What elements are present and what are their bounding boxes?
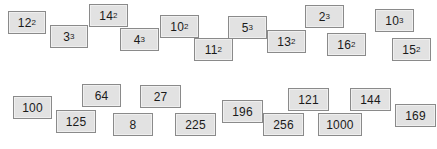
card-label: 2 bbox=[319, 11, 326, 23]
card-label: 11 bbox=[205, 44, 218, 56]
card-12-squared[interactable]: 122 bbox=[8, 11, 46, 34]
card-169[interactable]: 169 bbox=[395, 104, 436, 127]
card-121[interactable]: 121 bbox=[288, 88, 329, 111]
card-5-cubed[interactable]: 53 bbox=[228, 16, 267, 39]
card-label: 10 bbox=[385, 15, 399, 27]
card-3-cubed[interactable]: 33 bbox=[50, 25, 88, 48]
card-label: 1000 bbox=[326, 119, 354, 131]
card-label: 100 bbox=[22, 102, 43, 114]
card-label: 3 bbox=[63, 31, 70, 43]
card-label: 8 bbox=[130, 119, 137, 131]
card-label: 225 bbox=[185, 119, 206, 131]
card-27[interactable]: 27 bbox=[140, 85, 181, 108]
card-225[interactable]: 225 bbox=[175, 113, 216, 136]
card-label: 13 bbox=[277, 36, 291, 48]
card-256[interactable]: 256 bbox=[263, 113, 304, 136]
card-10-squared[interactable]: 102 bbox=[160, 15, 199, 38]
card-label: 12 bbox=[18, 17, 32, 29]
card-label: 27 bbox=[154, 91, 168, 103]
card-label: 16 bbox=[337, 39, 351, 51]
card-label: 169 bbox=[405, 110, 426, 122]
card-144[interactable]: 144 bbox=[350, 88, 391, 111]
card-label: 5 bbox=[242, 22, 249, 34]
card-matching-canvas: 1223314243102112531322316210315210012564… bbox=[0, 0, 437, 149]
card-label: 14 bbox=[99, 10, 113, 22]
card-label: 144 bbox=[360, 94, 381, 106]
card-11-squared[interactable]: 112 bbox=[194, 38, 233, 61]
card-label: 10 bbox=[170, 21, 184, 33]
card-label: 125 bbox=[66, 116, 87, 128]
card-8[interactable]: 8 bbox=[113, 113, 153, 136]
card-64[interactable]: 64 bbox=[82, 84, 121, 107]
card-13-squared[interactable]: 132 bbox=[267, 30, 306, 53]
card-10-cubed[interactable]: 103 bbox=[375, 9, 414, 32]
card-2-cubed[interactable]: 23 bbox=[305, 5, 344, 28]
card-15-squared[interactable]: 152 bbox=[392, 38, 431, 61]
card-196[interactable]: 196 bbox=[222, 100, 263, 123]
card-4-cubed[interactable]: 43 bbox=[120, 28, 159, 51]
card-label: 64 bbox=[95, 90, 109, 102]
card-125[interactable]: 125 bbox=[56, 110, 96, 133]
card-14-squared[interactable]: 142 bbox=[89, 4, 128, 27]
card-label: 256 bbox=[273, 119, 294, 131]
card-100[interactable]: 100 bbox=[13, 96, 52, 119]
card-label: 121 bbox=[298, 94, 319, 106]
card-label: 15 bbox=[402, 44, 416, 56]
card-label: 4 bbox=[134, 34, 141, 46]
card-16-squared[interactable]: 162 bbox=[327, 33, 366, 56]
card-label: 196 bbox=[232, 106, 253, 118]
card-1000[interactable]: 1000 bbox=[318, 113, 362, 136]
